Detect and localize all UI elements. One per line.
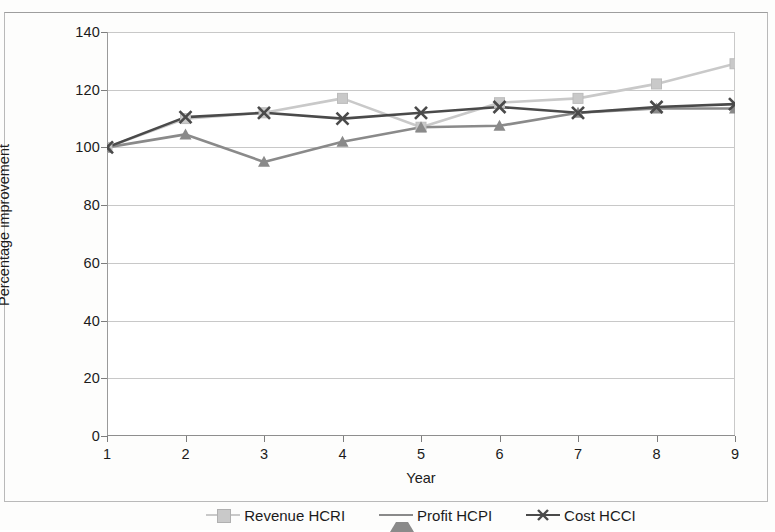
- x-axis-tick-labels: 123456789: [107, 446, 735, 468]
- x-tick-mark: [264, 436, 265, 442]
- square-marker-icon: [217, 509, 231, 523]
- x-tick-mark: [107, 436, 108, 442]
- y-tick-label: 40: [83, 313, 100, 329]
- data-point-marker-square: [730, 59, 735, 69]
- chart-legend: Revenue HCRIProfit HCPICost HCCI: [107, 503, 735, 527]
- legend-swatch-triangle-icon: [379, 508, 413, 522]
- x-tick-label: 8: [652, 446, 660, 462]
- legend-label: Profit HCPI: [417, 507, 492, 524]
- legend-label: Revenue HCRI: [244, 507, 345, 524]
- x-tick-mark: [343, 436, 344, 442]
- x-tick-mark: [186, 436, 187, 442]
- y-tick-label: 0: [92, 428, 100, 444]
- x-tick-label: 1: [103, 446, 111, 462]
- data-point-marker-square: [338, 93, 348, 103]
- x-tick-mark: [578, 436, 579, 442]
- x-tick-label: 6: [495, 446, 503, 462]
- x-tick-mark: [657, 436, 658, 442]
- y-tick-label: 100: [75, 139, 100, 155]
- y-tick-label: 140: [75, 24, 100, 40]
- y-tick-label: 20: [83, 370, 100, 386]
- data-point-marker-square: [573, 93, 583, 103]
- plot-area: [107, 32, 735, 436]
- x-tick-label: 5: [417, 446, 425, 462]
- x-tick-mark: [735, 436, 736, 442]
- legend-item-revenue-hcri: Revenue HCRI: [206, 507, 345, 524]
- y-tick-label: 120: [75, 82, 100, 98]
- triangle-marker-icon: [390, 510, 414, 532]
- x-tick-label: 9: [731, 446, 739, 462]
- y-axis-tick-labels: 020406080100120140: [52, 32, 100, 436]
- x-axis-title-text: Year: [406, 470, 435, 486]
- data-series-layer: [107, 32, 735, 436]
- legend-item-cost-hcci: Cost HCCI: [526, 507, 636, 524]
- legend-item-profit-hcpi: Profit HCPI: [379, 507, 492, 524]
- series-line: [107, 64, 735, 148]
- y-tick-label: 80: [83, 197, 100, 213]
- y-tick-label: 60: [83, 255, 100, 271]
- x-tick-label: 7: [574, 446, 582, 462]
- legend-swatch-square-icon: [206, 508, 240, 522]
- y-axis-title: Percentage improvement: [0, 0, 12, 118]
- x-tick-mark: [500, 436, 501, 442]
- x-tick-mark: [421, 436, 422, 442]
- x-axis-title: Year: [107, 470, 735, 486]
- data-point-marker-square: [652, 79, 662, 89]
- x-marker-icon: [537, 509, 549, 521]
- legend-label: Cost HCCI: [564, 507, 636, 524]
- y-axis-title-text: Percentage improvement: [0, 86, 12, 306]
- legend-swatch-x-icon: [526, 508, 560, 522]
- x-tick-label: 2: [181, 446, 189, 462]
- x-tick-label: 4: [338, 446, 346, 462]
- x-tick-label: 3: [260, 446, 268, 462]
